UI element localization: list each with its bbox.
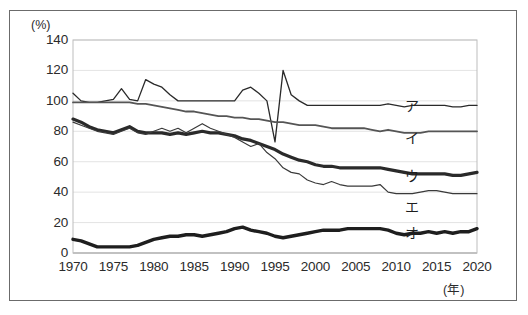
y-tick-label: 40 xyxy=(24,184,68,199)
x-axis-unit-label: (年) xyxy=(443,279,464,298)
x-tick-label: 1990 xyxy=(213,259,257,274)
y-axis-unit-label: (%) xyxy=(31,18,50,32)
x-tick-label: 2020 xyxy=(455,259,499,274)
y-tick-label: 120 xyxy=(24,62,68,77)
series-label-ウ: ウ xyxy=(405,165,419,185)
x-tick-label: 1970 xyxy=(51,259,95,274)
x-tick-label: 2015 xyxy=(415,259,459,274)
y-tick-label: 60 xyxy=(24,154,68,169)
x-tick-label: 1975 xyxy=(91,259,135,274)
chart-root: 020406080100120140 197019751980198519901… xyxy=(0,0,528,315)
y-tick-label: 80 xyxy=(24,123,68,138)
x-tick-label: 2005 xyxy=(334,259,378,274)
x-tick-label: 1995 xyxy=(253,259,297,274)
series-label-エ: エ xyxy=(405,196,419,216)
x-tick-label: 2000 xyxy=(293,259,337,274)
y-tick-label: 140 xyxy=(24,32,68,47)
x-tick-label: 1985 xyxy=(172,259,216,274)
y-tick-label: 0 xyxy=(24,245,68,260)
y-tick-label: 100 xyxy=(24,93,68,108)
series-label-ア: ア xyxy=(405,95,419,115)
x-tick-label: 1980 xyxy=(132,259,176,274)
x-tick-label: 2010 xyxy=(374,259,418,274)
series-label-イ: イ xyxy=(405,127,419,147)
series-label-オ: オ xyxy=(405,222,419,242)
y-tick-label: 20 xyxy=(24,215,68,230)
